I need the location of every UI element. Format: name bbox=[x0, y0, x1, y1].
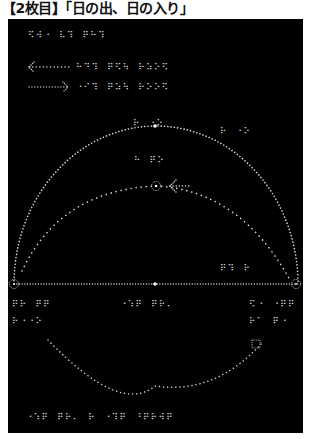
right-horizon-label-2: ⠗⠁⠀⠟⠐ bbox=[249, 316, 288, 326]
right-arc-label: ⠟⠹⠀⠗ bbox=[220, 263, 251, 273]
lower-sun-path-arc bbox=[48, 340, 262, 394]
horizon-center-label: ⠐⠱⠟⠀⠟⠗⠄ bbox=[120, 299, 175, 309]
braille-heading: ⠫⠺⠐⠀⠧⠹⠀⠟⠓⠹ bbox=[28, 30, 106, 40]
braille-footer: ⠐⠱⠟⠀⠟⠗⠄⠀⠗⠀⠐⠹⠟⠀⠘⠟⠗⠺⠟ bbox=[26, 412, 174, 422]
legend-sunrise-label: ⠓⠙⠹⠀⠟⠫⠳⠀⠗⠵⠕⠫ bbox=[76, 62, 170, 72]
tactile-diagram-panel: ⠫⠺⠐⠀⠧⠹⠀⠟⠓⠹ ⠓⠙⠹⠀⠟⠫⠳⠀⠗⠵⠕⠫ ⠐⠊⠹⠀⠟⠵⠳⠀⠗⠕⠕⠫ ⠗⠀⠐… bbox=[8, 19, 303, 433]
page-title: 【2枚目】「日の出、日の入り」 bbox=[2, 0, 193, 18]
left-horizon-label-1: ⠟⠗⠀⠟⠟ bbox=[12, 299, 51, 309]
legend-sunset-label: ⠐⠊⠹⠀⠟⠵⠳⠀⠗⠕⠕⠫ bbox=[76, 82, 170, 92]
outer-sun-path-arc bbox=[14, 126, 298, 284]
right-horizon-label-1: ⠫⠐⠀⠐⠟⠟ bbox=[249, 299, 296, 309]
inner-arc-label: ⠓⠀⠟⠕ bbox=[134, 155, 165, 165]
zenith-label: ⠗⠀⠐⠕ bbox=[133, 118, 164, 128]
left-horizon-label-2: ⠗⠐⠐⠕ bbox=[12, 316, 43, 326]
upper-right-label: ⠗⠀⠐⠕ bbox=[220, 126, 251, 136]
observer-point bbox=[153, 282, 157, 286]
